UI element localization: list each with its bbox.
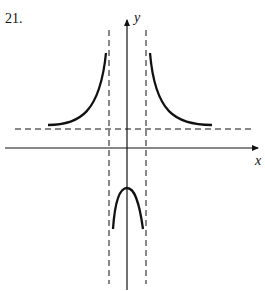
middle-branch-curve (113, 188, 143, 229)
x-axis-label: x (254, 153, 262, 168)
graph-figure: 21. y x (0, 0, 265, 291)
left-branch-curve (48, 53, 106, 125)
y-axis-label: y (132, 10, 141, 25)
right-branch-curve (150, 53, 212, 125)
problem-number: 21. (5, 11, 23, 26)
